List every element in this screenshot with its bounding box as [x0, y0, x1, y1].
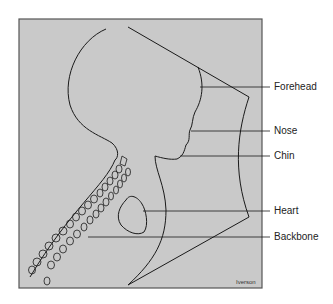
label-backbone: Backbone: [274, 232, 318, 242]
label-nose: Nose: [274, 126, 297, 136]
label-chin: Chin: [274, 151, 295, 161]
artist-credit: Iverson: [236, 279, 256, 285]
label-heart: Heart: [274, 206, 298, 216]
diagram-frame: [19, 19, 262, 288]
label-forehead: Forehead: [274, 82, 317, 92]
